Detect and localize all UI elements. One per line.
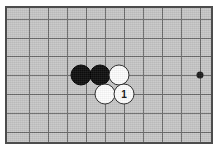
- grid-line-horizontal-6: [7, 132, 211, 133]
- stone-black-0[interactable]: [71, 65, 92, 86]
- stone-black-1[interactable]: [90, 65, 111, 86]
- stone-white-move-1[interactable]: 1: [114, 84, 135, 105]
- stone-white-3[interactable]: [95, 84, 116, 105]
- grid-line-horizontal-0: [7, 19, 211, 20]
- grid-line-horizontal-5: [7, 113, 211, 114]
- go-diagram-figure: 1: [0, 0, 220, 150]
- grid-line-horizontal-2: [7, 56, 211, 57]
- go-board[interactable]: 1: [5, 6, 213, 144]
- star-point-hoshi-right: [197, 72, 204, 79]
- stone-white-2[interactable]: [109, 65, 130, 86]
- grid-line-horizontal-1: [7, 38, 211, 39]
- stone-move-number: 1: [121, 89, 127, 99]
